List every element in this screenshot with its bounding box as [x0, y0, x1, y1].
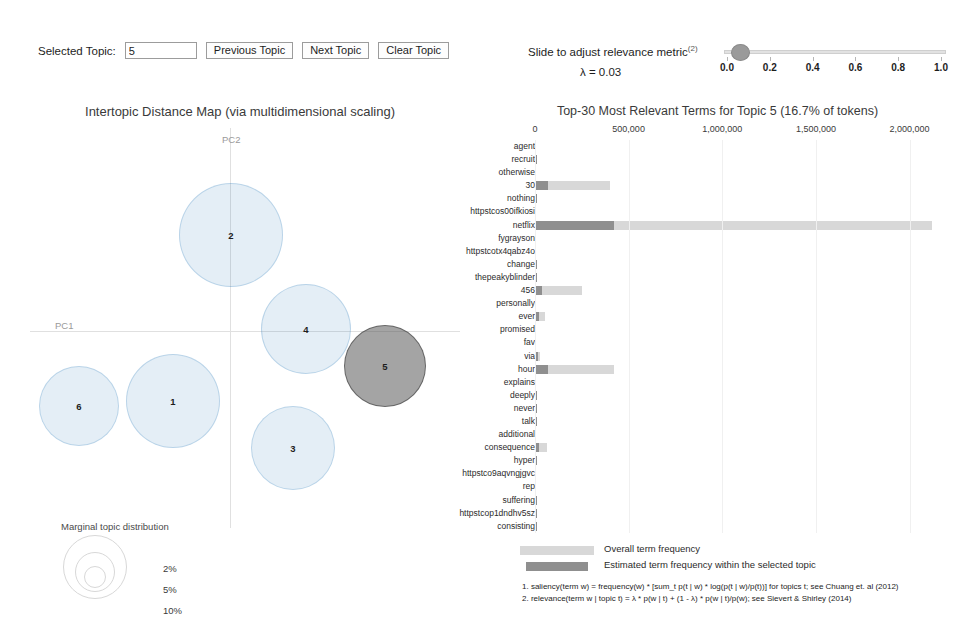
slider-tick-0.8 [898, 57, 899, 61]
bar-topic-frequency [535, 286, 542, 295]
bar-row[interactable]: consequence [480, 441, 955, 454]
term-label[interactable]: consisting [415, 521, 535, 531]
term-label[interactable]: never [415, 403, 535, 413]
mds-scatter-plot[interactable]: PC2 PC1 123456 [30, 128, 460, 528]
legend-row-overall: Overall term frequency [520, 543, 955, 559]
intertopic-map-title: Intertopic Distance Map (via multidimens… [0, 104, 480, 119]
bar-row[interactable]: netflix [480, 219, 955, 232]
term-label[interactable]: 456 [415, 285, 535, 295]
slider-caption-text: Slide to adjust relevance metric [528, 46, 688, 58]
bar-row[interactable]: hour [480, 363, 955, 376]
legend-swatch-topic [526, 562, 588, 571]
slider-handle[interactable] [731, 44, 750, 61]
slider-tick-0.0 [727, 57, 728, 61]
term-label[interactable]: deeply [415, 390, 535, 400]
term-label[interactable]: otherwise [415, 167, 535, 177]
legend-swatch-overall [520, 546, 594, 555]
term-label[interactable]: rep [415, 481, 535, 491]
term-label[interactable]: httpstco9aqvngjgvc [415, 468, 535, 478]
term-label[interactable]: 30 [415, 180, 535, 190]
term-label[interactable]: recruit [415, 154, 535, 164]
legend-label-topic: Estimated term frequency within the sele… [604, 559, 816, 570]
legend-row-topic: Estimated term frequency within the sele… [520, 559, 955, 575]
topic-circle-1[interactable]: 1 [126, 354, 220, 448]
bar-row[interactable]: personally [480, 297, 955, 310]
bar-row[interactable]: suffering [480, 494, 955, 507]
next-topic-button[interactable]: Next Topic [302, 42, 369, 59]
term-label[interactable]: thepeakyblinder [415, 272, 535, 282]
bar-row[interactable]: fav [480, 336, 955, 349]
topic-circle-label-3: 3 [290, 443, 295, 454]
x-axis-tick-4: 2,000,000 [890, 124, 930, 134]
bar-row[interactable]: ever [480, 310, 955, 323]
x-axis-tick-2: 1,000,000 [702, 124, 742, 134]
gridline-0 [535, 140, 536, 533]
barchart-rows: agentrecruitotherwise30nothinghttpstcos0… [480, 140, 955, 533]
topic-circle-4[interactable]: 4 [261, 284, 351, 374]
term-label[interactable]: httpstcotx4qabz4o [415, 246, 535, 256]
term-label[interactable]: suffering [415, 495, 535, 505]
bar-row[interactable]: httpstcop1dndhv5sz [480, 507, 955, 520]
bar-row[interactable]: httpstco9aqvngjgvc [480, 467, 955, 480]
term-label[interactable]: httpstcos00ifkiosi [415, 206, 535, 216]
term-label[interactable]: httpstcop1dndhv5sz [415, 508, 535, 518]
term-label[interactable]: via [415, 351, 535, 361]
gridline-4 [910, 140, 911, 533]
term-label[interactable]: netflix [415, 220, 535, 230]
bar-row[interactable]: fygrayson [480, 232, 955, 245]
term-label[interactable]: consequence [415, 442, 535, 452]
bar-row[interactable]: recruit [480, 153, 955, 166]
term-label[interactable]: change [415, 259, 535, 269]
term-label[interactable]: ever [415, 311, 535, 321]
bar-row[interactable]: explains [480, 376, 955, 389]
bar-row[interactable]: deeply [480, 389, 955, 402]
bar-row[interactable]: never [480, 402, 955, 415]
term-label[interactable]: fygrayson [415, 233, 535, 243]
selected-topic-input[interactable] [125, 42, 197, 59]
bar-row[interactable]: httpstcotx4qabz4o [480, 245, 955, 258]
slider-tick-label-0.4: 0.4 [806, 62, 820, 73]
bar-topic-frequency [535, 181, 548, 190]
bar-row[interactable]: hyper [480, 454, 955, 467]
term-label[interactable]: promised [415, 324, 535, 334]
term-label[interactable]: additional [415, 429, 535, 439]
bar-row[interactable]: 30 [480, 179, 955, 192]
slider-track[interactable] [724, 50, 946, 54]
bar-row[interactable]: via [480, 350, 955, 363]
bar-row[interactable]: nothing [480, 192, 955, 205]
clear-topic-button[interactable]: Clear Topic [378, 42, 449, 59]
topic-circle-5[interactable]: 5 [344, 325, 426, 407]
bar-row[interactable]: thepeakyblinder [480, 271, 955, 284]
barchart-x-axis: 0500,0001,000,0001,500,0002,000,000 [480, 124, 955, 138]
marginal-legend-pct-2: 2% [163, 563, 177, 574]
x-axis-tick-1: 500,000 [612, 124, 645, 134]
bar-row[interactable]: rep [480, 480, 955, 493]
bar-row[interactable]: otherwise [480, 166, 955, 179]
bar-row[interactable]: additional [480, 428, 955, 441]
term-label[interactable]: personally [415, 298, 535, 308]
bar-row[interactable]: consisting [480, 520, 955, 533]
bar-row[interactable]: agent [480, 140, 955, 153]
slider-caption: Slide to adjust relevance metric(2) [528, 44, 698, 58]
gridline-1 [629, 140, 630, 533]
bar-row[interactable]: httpstcos00ifkiosi [480, 205, 955, 218]
bar-row[interactable]: talk [480, 415, 955, 428]
term-label[interactable]: fav [415, 337, 535, 347]
term-label[interactable]: hour [415, 364, 535, 374]
footnotes: 1. saliency(term w) = frequency(w) * [su… [522, 581, 955, 605]
topic-circle-6[interactable]: 6 [39, 366, 119, 446]
previous-topic-button[interactable]: Previous Topic [206, 42, 293, 59]
term-label[interactable]: talk [415, 416, 535, 426]
topic-circle-3[interactable]: 3 [251, 406, 335, 490]
slider-track-wrap[interactable]: 0.00.20.40.60.81.0 [724, 42, 946, 84]
relevance-slider-region: Slide to adjust relevance metric(2) λ = … [528, 42, 946, 84]
term-label[interactable]: nothing [415, 193, 535, 203]
topic-circle-2[interactable]: 2 [179, 183, 283, 287]
bar-row[interactable]: change [480, 258, 955, 271]
term-label[interactable]: explains [415, 377, 535, 387]
bar-row[interactable]: promised [480, 323, 955, 336]
term-label[interactable]: hyper [415, 455, 535, 465]
term-label[interactable]: agent [415, 141, 535, 151]
bar-row[interactable]: 456 [480, 284, 955, 297]
top-terms-barchart-panel: Top-30 Most Relevant Terms for Topic 5 (… [480, 96, 955, 642]
